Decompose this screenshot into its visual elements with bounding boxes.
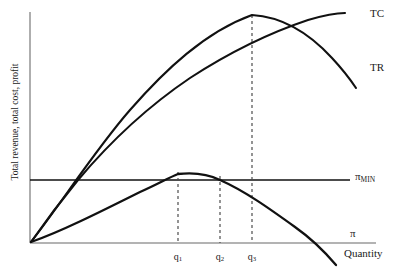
pi-min-subscript: MIN bbox=[361, 175, 376, 184]
y-axis-label: Total revenue, total cost, profit bbox=[10, 22, 20, 222]
economics-chart-figure: Total revenue, total cost, profit TC TR … bbox=[0, 0, 402, 271]
x-tick-label-q3: q3 bbox=[248, 251, 256, 262]
y-axis-label-container: Total revenue, total cost, profit bbox=[0, 0, 22, 271]
q3-subscript: 3 bbox=[253, 255, 256, 262]
x-tick-label-q2: q2 bbox=[216, 251, 224, 262]
series-label-pi: π bbox=[350, 228, 356, 239]
x-tick-label-q1: q1 bbox=[174, 251, 182, 262]
q1-subscript: 1 bbox=[179, 255, 182, 262]
total-cost-curve bbox=[31, 13, 345, 242]
series-label-tr: TR bbox=[370, 62, 384, 73]
x-axis-label: Quantity bbox=[344, 248, 383, 259]
total-revenue-curve bbox=[31, 15, 356, 242]
q2-subscript: 2 bbox=[221, 255, 224, 262]
series-label-tc: TC bbox=[370, 8, 384, 19]
profit-curve bbox=[31, 173, 336, 265]
series-label-pi-min: πMIN bbox=[355, 171, 375, 183]
chart-plot-area bbox=[0, 0, 402, 271]
